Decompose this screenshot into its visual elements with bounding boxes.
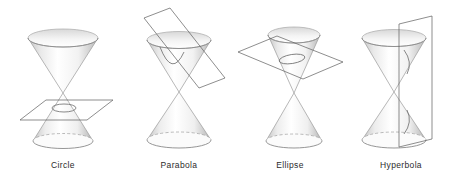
panel-ellipse: Ellipse xyxy=(233,0,347,185)
upper-cone xyxy=(28,29,98,93)
panel-label-ellipse: Ellipse xyxy=(233,160,347,171)
upper-cone xyxy=(268,27,320,93)
panel-label-parabola: Parabola xyxy=(122,160,236,171)
upper-cone-body xyxy=(268,35,320,93)
lower-cone xyxy=(362,92,426,148)
lower-cone xyxy=(147,92,211,148)
parabola-diagram xyxy=(122,0,236,185)
upper-cone xyxy=(362,30,426,93)
panel-parabola: Parabola xyxy=(122,0,236,185)
lower-cone-body xyxy=(266,93,322,141)
circle-diagram xyxy=(6,0,120,185)
panel-label-hyperbola: Hyperbola xyxy=(344,160,458,171)
hyperbola-diagram xyxy=(344,0,458,185)
lower-cone xyxy=(33,93,93,149)
panel-circle: Circle xyxy=(6,0,120,185)
upper-cone xyxy=(147,32,211,93)
panel-hyperbola: Hyperbola xyxy=(344,0,458,185)
conic-sections-figure: Circle xyxy=(0,0,458,185)
ellipse-diagram xyxy=(233,0,347,185)
lower-cone xyxy=(266,93,322,148)
panel-label-circle: Circle xyxy=(6,160,120,171)
